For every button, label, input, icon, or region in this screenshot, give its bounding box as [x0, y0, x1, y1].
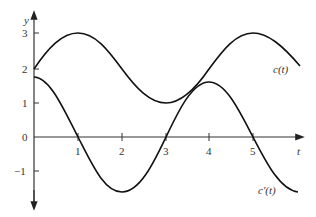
t-tick-4: 4 — [206, 145, 212, 157]
t-tick-5: 5 — [250, 145, 256, 157]
t-tick-2: 2 — [119, 145, 125, 157]
c-curve-label: c(t) — [273, 63, 289, 76]
t-tick-1: 1 — [75, 145, 81, 157]
y-tick-1: 1 — [22, 97, 28, 109]
y-ticks — [34, 33, 39, 171]
cprime-curve-label: c′(t) — [258, 184, 276, 197]
y-axis-label: y — [23, 14, 29, 26]
t-tick-3: 3 — [163, 145, 169, 157]
t-axis-label: t — [297, 145, 301, 157]
c-curve — [34, 33, 300, 103]
chart: y 3 2 1 0 −1 1 2 3 4 5 t c(t) c′(t) — [0, 0, 316, 217]
y-tick-2: 2 — [22, 63, 28, 75]
y-tick-minus1: −1 — [14, 165, 26, 177]
y-tick-0: 0 — [22, 131, 28, 143]
y-tick-3: 3 — [22, 27, 28, 39]
